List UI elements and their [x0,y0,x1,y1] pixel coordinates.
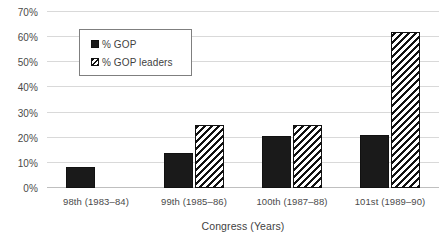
y-tick-label: 10% [18,157,38,168]
bar-gop-2 [262,136,291,188]
x-tick-label: 98th (1983–84) [63,196,129,207]
bar-gop-3 [360,135,389,188]
y-tick-label: 70% [18,7,38,18]
bar-chart: 0%10%20%30%40%50%60%70% % GOP% GOP leade… [0,0,448,245]
y-tick-label: 40% [18,82,38,93]
x-axis-title: Congress (Years) [47,220,439,232]
bar-gop-1 [164,153,193,188]
legend-label: % GOP leaders [102,57,173,68]
legend-item: % GOP [91,35,191,53]
bar-gop-leaders-2 [293,125,322,188]
chart-legend: % GOP% GOP leaders [79,29,192,76]
y-axis: 0%10%20%30%40%50%60%70% [0,12,43,188]
bar-gop-0 [66,167,95,188]
y-tick-label: 0% [23,183,38,194]
x-tick-label: 101st (1989–90) [355,196,426,207]
bar-gop-leaders-1 [195,125,224,188]
x-axis-labels: 98th (1983–84)99th (1985–86)100th (1987–… [47,196,439,212]
y-tick-label: 20% [18,132,38,143]
legend-swatch-icon [91,58,99,66]
y-tick-label: 50% [18,57,38,68]
x-tick-label: 99th (1985–86) [161,196,227,207]
y-tick-label: 60% [18,32,38,43]
y-tick-label: 30% [18,107,38,118]
x-tick-label: 100th (1987–88) [256,196,327,207]
legend-label: % GOP [102,39,136,50]
legend-item: % GOP leaders [91,53,191,71]
legend-swatch-icon [91,40,99,48]
bar-gop-leaders-3 [391,32,420,188]
